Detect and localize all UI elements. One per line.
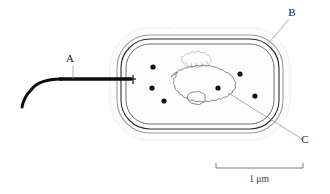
ribosome-dot (237, 71, 242, 76)
flagellum-curve (22, 79, 61, 107)
ribosome-dot (149, 85, 154, 90)
ribosome-dot (215, 85, 220, 90)
ribosome-dot (150, 64, 155, 69)
callout-label-b: B (288, 6, 295, 18)
callout-label-c: C (301, 133, 308, 145)
scale-bar-label: 1 μm (249, 174, 269, 184)
bacterial-cell-diagram: A B C 1 μm (0, 0, 330, 194)
scale-bar: 1 μm (216, 163, 303, 184)
ribosome-dot (161, 98, 166, 103)
callout-label-a: A (66, 52, 74, 64)
figure-root: A B C 1 μm (0, 0, 330, 194)
cytoplasm-layer (126, 44, 274, 124)
ribosome-dot (252, 93, 257, 98)
